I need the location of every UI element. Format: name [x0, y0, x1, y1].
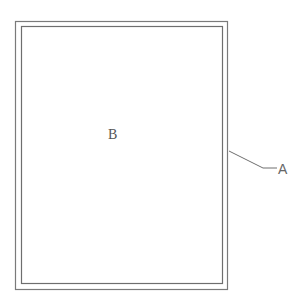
- outer-frame: [16, 22, 228, 290]
- inner-frame: [22, 27, 223, 284]
- label-b: B: [108, 127, 117, 142]
- leader-line: [229, 151, 277, 168]
- frame-diagram: B A: [0, 0, 307, 305]
- label-a: A: [278, 161, 288, 177]
